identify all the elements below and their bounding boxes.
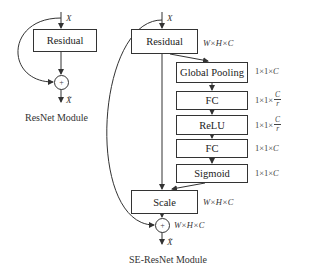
sigmoid-block: Sigmoid xyxy=(176,164,248,183)
resnet-caption: ResNet Module xyxy=(25,112,88,123)
fc1-dim: 1×1× Cr xyxy=(255,91,281,108)
relu-block: ReLU xyxy=(176,115,248,135)
se-sum-node: + xyxy=(155,218,170,233)
fc1-block: FC xyxy=(176,91,248,110)
resnet-residual-block: Residual xyxy=(33,29,97,52)
se-input-label: X xyxy=(167,13,173,23)
sigmoid-dim: 1×1×C xyxy=(255,168,279,178)
se-residual-block: Residual xyxy=(131,29,198,54)
global-pooling-dim: 1×1×C xyxy=(255,66,279,76)
se-resnet-caption: SE-ResNet Module xyxy=(129,254,207,265)
fc2-dim: 1×1×C xyxy=(255,143,279,153)
resnet-input-label: X xyxy=(66,13,72,23)
se-output-label: X̃ xyxy=(167,237,173,247)
resnet-sum-node: + xyxy=(54,75,69,90)
global-pooling-block: Global Pooling xyxy=(176,62,248,83)
relu-dim: 1×1× Cr xyxy=(255,116,281,133)
scale-block: Scale xyxy=(131,190,198,214)
fc2-block: FC xyxy=(176,139,248,158)
scale-dim: W×H×C xyxy=(203,197,233,207)
resnet-output-label: X̃ xyxy=(66,95,72,105)
se-residual-dim: W×H×C xyxy=(203,38,233,48)
se-sum-dim: W×H×C xyxy=(174,220,204,230)
